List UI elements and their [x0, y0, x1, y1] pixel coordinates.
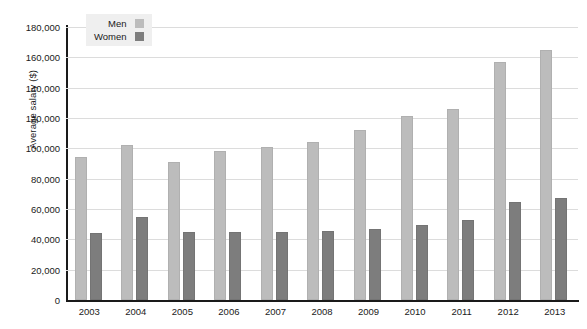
x-axis-tick-label: 2012: [498, 306, 519, 317]
x-axis-tick-label: 2010: [405, 306, 426, 317]
bar-men-2010: [401, 116, 413, 300]
y-axis-tick-label: 100,000: [26, 143, 60, 154]
bar-group-2008: [299, 27, 346, 300]
y-axis-tick-label: 60,000: [31, 204, 60, 215]
bar-men-2009: [354, 130, 366, 300]
bar-men-2012: [494, 62, 506, 300]
bar-group-2005: [159, 27, 206, 300]
legend-label-men: Men: [108, 18, 126, 29]
bar-women-2007: [276, 232, 288, 300]
bar-women-2012: [509, 202, 521, 300]
x-axis-tick-label: 2003: [79, 306, 100, 317]
x-axis-tick-label: 2004: [125, 306, 146, 317]
bar-men-2006: [214, 151, 226, 300]
bar-group-2003: [66, 27, 113, 300]
gridline: [66, 300, 578, 301]
x-axis-tick-label: 2005: [172, 306, 193, 317]
x-axis-tick-label: 2013: [544, 306, 565, 317]
bar-men-2013: [540, 50, 552, 300]
legend-item-men: Men: [94, 17, 144, 29]
bar-women-2003: [90, 233, 102, 300]
x-axis-tick-label: 2009: [358, 306, 379, 317]
bar-women-2006: [229, 232, 241, 300]
bar-men-2008: [307, 142, 319, 300]
bar-women-2013: [555, 198, 567, 300]
bar-women-2011: [462, 220, 474, 300]
bar-chart: Average salary ($) 020,00040,00060,00080…: [0, 0, 587, 329]
bar-women-2010: [416, 225, 428, 300]
x-axis-tick-label: 2008: [311, 306, 332, 317]
men-swatch-icon: [135, 19, 144, 28]
bar-women-2004: [136, 217, 148, 300]
bar-group-2006: [206, 27, 253, 300]
bar-men-2011: [447, 109, 459, 300]
y-axis-tick-label: 20,000: [31, 264, 60, 275]
y-axis-tick-label: 160,000: [26, 52, 60, 63]
bar-men-2003: [75, 157, 87, 300]
bar-men-2005: [168, 162, 180, 300]
bar-group-2010: [392, 27, 439, 300]
y-axis-tick-label: 80,000: [31, 173, 60, 184]
bar-group-2011: [438, 27, 485, 300]
legend-item-women: Women: [94, 30, 144, 42]
y-axis-tick-label: 40,000: [31, 234, 60, 245]
x-axis-tick-label: 2011: [451, 306, 471, 317]
y-axis-tick-label: 120,000: [26, 113, 60, 124]
bar-men-2007: [261, 147, 273, 300]
legend-label-women: Women: [94, 31, 127, 42]
chart-legend: Men Women: [86, 14, 152, 46]
x-axis-tick-label: 2007: [265, 306, 286, 317]
bar-women-2008: [322, 231, 334, 300]
plot-area: 020,00040,00060,00080,000100,000120,0001…: [66, 27, 578, 300]
bar-groups: [66, 27, 578, 300]
bar-group-2007: [252, 27, 299, 300]
bar-group-2004: [113, 27, 160, 300]
bar-women-2009: [369, 229, 381, 300]
bar-group-2009: [345, 27, 392, 300]
bar-women-2005: [183, 232, 195, 300]
women-swatch-icon: [135, 32, 144, 41]
x-axis-tick-label: 2006: [218, 306, 239, 317]
y-axis-tick-label: 140,000: [26, 82, 60, 93]
bar-group-2013: [531, 27, 578, 300]
y-axis-tick-label: 0: [55, 295, 60, 306]
bar-men-2004: [121, 145, 133, 300]
bar-group-2012: [485, 27, 532, 300]
y-axis-tick-label: 180,000: [26, 22, 60, 33]
